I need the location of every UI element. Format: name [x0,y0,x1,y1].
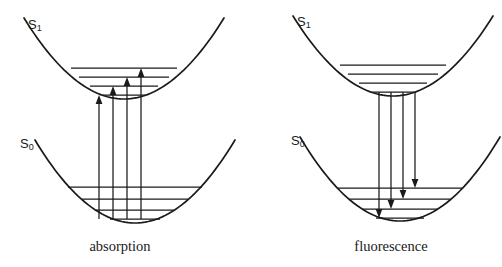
transition-fluo-0-2 [400,92,407,199]
transition-abs-0-0 [96,95,103,219]
state-subscript: 0 [300,139,305,149]
diagram-canvas [0,0,502,267]
panel-absorption [24,18,235,223]
label-s0-absorption: S0 [20,136,34,151]
transition-fluo-0-3 [412,92,419,188]
state-symbol: S [20,136,29,151]
well-absorption-S0 [35,140,235,223]
panel-fluorescence [293,16,500,221]
well-fluorescence-S0 [300,137,500,221]
state-subscript: 0 [29,142,34,152]
state-subscript: 1 [306,20,311,30]
potential-curve-s1 [24,18,224,99]
transition-arrowhead [138,68,145,77]
transition-arrowhead [388,200,395,209]
label-s1-absorption: S1 [28,17,42,32]
label-s1-fluorescence: S1 [297,14,311,29]
state-symbol: S [28,17,37,32]
transition-arrowhead [110,86,117,95]
caption-absorption: absorption [0,238,240,255]
transition-abs-0-3 [138,68,145,219]
well-fluorescence-S1 [293,16,493,96]
transition-arrowhead [400,190,407,199]
transition-fluo-0-1 [388,92,395,209]
state-symbol: S [291,133,300,148]
state-symbol: S [297,14,306,29]
franck-condon-diagram: S1 S0 S1 S0 absorption fluorescence [0,0,502,267]
transition-arrowhead [124,77,131,86]
label-s0-fluorescence: S0 [291,133,305,148]
caption-fluorescence: fluorescence [271,238,502,255]
state-subscript: 1 [37,23,42,33]
potential-curve-s1 [293,16,493,96]
transition-arrowhead [96,95,103,104]
transition-arrowhead [412,179,419,188]
well-absorption-S1 [24,18,224,99]
